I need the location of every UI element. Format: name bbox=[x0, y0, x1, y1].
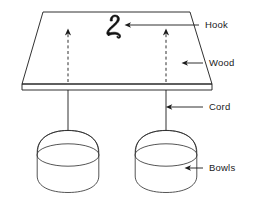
hook-icon bbox=[107, 15, 121, 38]
diagram-canvas: Hook Wood Cord Bowls bbox=[0, 0, 259, 199]
bowls-leader bbox=[185, 165, 204, 171]
label-bowls: Bowls bbox=[209, 162, 235, 173]
right-bowl bbox=[135, 130, 197, 192]
label-hook: Hook bbox=[205, 19, 228, 30]
hook-leader bbox=[125, 22, 200, 28]
hanging-bowls-diagram: Hook Wood Cord Bowls bbox=[0, 0, 259, 199]
right-force-arrow bbox=[163, 29, 169, 83]
cord-leader bbox=[166, 104, 203, 110]
label-cord: Cord bbox=[209, 101, 230, 112]
label-wood: Wood bbox=[209, 57, 234, 68]
wood-leader bbox=[182, 60, 204, 66]
left-force-arrow bbox=[65, 29, 71, 83]
left-bowl bbox=[37, 130, 99, 192]
board-front-edge-face bbox=[22, 84, 212, 90]
